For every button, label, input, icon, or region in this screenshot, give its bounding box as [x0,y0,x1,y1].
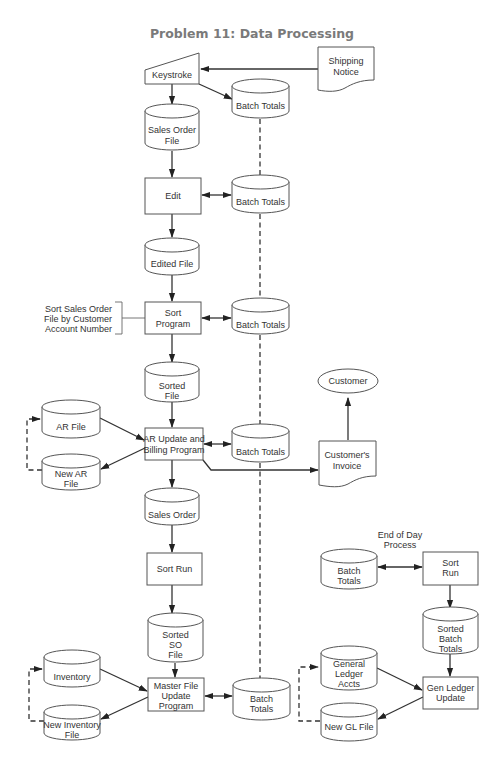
process-shape [145,302,201,334]
node-label: File [165,391,180,401]
node-label: Totals [337,576,361,586]
sales-order-file-node[interactable]: Sales Order File [145,104,199,150]
inventory-node[interactable]: Inventory [44,650,100,687]
disk-top [232,79,289,93]
batch-totals-node[interactable]: Batch Totals [232,298,289,334]
sort-program-node[interactable]: Sort Program [145,302,201,334]
node-label: Batch Totals [236,447,285,457]
annotation-text: File by Customer [44,314,112,324]
node-label: Edited File [151,259,194,269]
node-label: Gen Ledger [427,683,475,693]
node-label: Ledger [335,669,363,679]
node-label: SO [169,640,182,650]
node-label: Sort [165,308,182,318]
node-label: Batch [337,566,360,576]
disk-top [44,705,100,719]
batch-totals-node[interactable]: Batch Totals [232,175,289,213]
node-label: Update [436,693,465,703]
section-label: End of Day [378,530,423,540]
node-label: AR File [56,422,86,432]
node-label: Notice [333,67,359,77]
edges [27,69,450,721]
node-label: File [64,479,79,489]
disk-top [145,488,199,502]
master-file-update-node[interactable]: Master File Update Program [148,678,204,711]
batch-totals-node[interactable]: Batch Totals [232,79,289,118]
node-label: AR Update and [143,434,205,444]
dashed-feedback-arrow [29,669,44,721]
new-gl-file-node[interactable]: New GL File [321,703,377,741]
node-label: Batch Totals [236,320,285,330]
node-label: Customer [328,376,367,386]
diagram-title: Problem 11: Data Processing [150,26,354,41]
arrow [100,669,147,691]
node-label: Sorted [162,630,189,640]
node-label: Batch Totals [236,197,285,207]
annotation-text: Sort Sales Order [45,304,112,314]
dashed-feedback-arrow [299,667,320,721]
sorted-batch-totals-node[interactable]: Sorted Batch Totals [423,607,478,654]
general-ledger-accts-node[interactable]: General Ledger Accts [321,646,377,690]
gen-ledger-update-node[interactable]: Gen Ledger Update [423,677,478,709]
ar-file-node[interactable]: AR File [42,400,100,438]
node-label: Sales Order [148,510,196,520]
new-ar-file-node[interactable]: New AR File [42,454,100,490]
eod-batch-totals-node[interactable]: Batch Totals [321,549,377,589]
node-label: Inventory [53,672,91,682]
node-label: Sorted [159,381,186,391]
shipping-notice-node[interactable]: Shipping Notice [318,47,374,91]
dashed-feedback-arrow [27,419,42,470]
node-label: Program [159,701,194,711]
ar-update-billing-node[interactable]: AR Update and Billing Program [143,428,205,460]
disk-top [321,646,377,660]
disk-top [148,613,203,627]
node-label: File [168,650,183,660]
disk-top [145,104,199,118]
node-label: Invoice [333,461,362,471]
disk-top [423,607,478,621]
flowchart-canvas: Problem 11: Data Processing [0,0,504,769]
edited-file-node[interactable]: Edited File [145,238,199,275]
arrow [100,418,144,440]
end-of-day-label: End of Day Process [378,530,423,550]
sort-run-node[interactable]: Sort Run [147,553,202,585]
node-label: New Inventory [43,720,101,730]
node-label: General [333,659,365,669]
node-label: Program [156,319,191,329]
customers-invoice-node[interactable]: Customer's Invoice [319,441,376,487]
disk-top [321,549,377,563]
node-label: Customer's [324,450,370,460]
process-shape [145,428,203,460]
node-label: File [65,730,80,740]
sort-annotation: Sort Sales Order File by Customer Accoun… [44,304,112,334]
disk-top [145,362,199,376]
customer-node[interactable]: Customer [318,369,378,393]
annotation-text: Account Number [45,324,112,334]
batch-totals-node[interactable]: Batch Totals [232,424,289,462]
sales-order-node[interactable]: Sales Order [145,488,199,525]
arrow [377,668,422,690]
sorted-so-file-node[interactable]: Sorted SO File [148,613,203,662]
disk-top [232,298,289,312]
eod-sort-run-node[interactable]: Sort Run [423,552,478,585]
new-inventory-file-node[interactable]: New Inventory File [43,705,101,740]
disk-top [44,650,100,664]
node-label: Totals [439,644,463,654]
batch-totals-node[interactable]: Batch Totals [233,678,290,720]
edit-node[interactable]: Edit [145,178,201,214]
node-label: Sort Run [157,564,193,574]
disk-top [233,678,290,692]
node-label: Batch Totals [236,101,285,111]
node-label: Batch [439,634,462,644]
arrow [101,448,145,469]
arrow [378,697,423,719]
annotation-bracket [115,302,122,334]
disk-top [232,424,289,438]
disk-top [321,703,377,717]
sorted-file-node[interactable]: Sorted File [145,362,199,402]
node-label: Billing Program [143,445,204,455]
node-label: Totals [250,704,274,714]
node-label: File [165,136,180,146]
node-label: Accts [338,679,361,689]
keystroke-node[interactable]: Keystroke [145,53,199,84]
